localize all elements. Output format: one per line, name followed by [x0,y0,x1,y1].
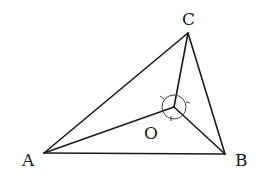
label-o: O [144,123,158,143]
label-a: A [21,150,35,170]
geometry-diagram: C A B O [0,0,263,186]
label-c: C [182,9,195,29]
segment-ca [44,33,188,153]
tick-angle-coa [160,96,164,99]
label-b: B [235,150,248,170]
tick-angle-boc [186,102,190,103]
segment-bc [188,33,225,154]
segment-oc [174,33,188,107]
segment-ab [44,153,225,154]
